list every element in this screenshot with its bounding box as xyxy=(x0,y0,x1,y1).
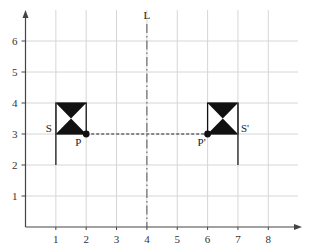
shape-label: S' xyxy=(241,122,249,134)
y-tick-label: 6 xyxy=(12,35,18,47)
x-tick-label: 5 xyxy=(175,233,181,245)
x-tick-label: 8 xyxy=(266,233,272,245)
tick-labels: 12345678123456 xyxy=(12,35,272,245)
x-tick-label: 6 xyxy=(205,233,211,245)
x-tick-label: 4 xyxy=(144,233,150,245)
y-tick-label: 5 xyxy=(12,66,18,78)
x-tick-label: 1 xyxy=(53,233,59,245)
x-axis-arrow-icon xyxy=(294,224,302,230)
point-label: P' xyxy=(198,136,206,148)
mirror-line-label: L xyxy=(144,9,151,21)
reflection-diagram: 12345678123456 L SS' PP' xyxy=(0,0,320,251)
y-axis-arrow-icon xyxy=(23,10,29,18)
x-tick-label: 7 xyxy=(235,233,241,245)
point-label: P xyxy=(75,136,81,148)
y-tick-label: 4 xyxy=(12,97,18,109)
x-tick-label: 2 xyxy=(83,233,89,245)
points: PP' xyxy=(75,131,211,148)
shape-label: S xyxy=(46,122,52,134)
y-tick-label: 1 xyxy=(12,190,18,202)
point-p xyxy=(83,131,90,138)
y-tick-label: 2 xyxy=(12,159,18,171)
x-tick-label: 3 xyxy=(114,233,120,245)
y-tick-label: 3 xyxy=(12,128,18,140)
